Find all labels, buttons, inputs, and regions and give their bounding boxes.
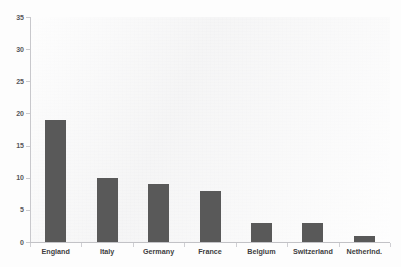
- y-tick-label: 35: [4, 14, 24, 21]
- x-tick-mark: [339, 243, 340, 247]
- x-axis-line: [30, 242, 390, 243]
- bar: [148, 184, 169, 242]
- x-tick-mark: [81, 243, 82, 247]
- bar: [251, 223, 272, 242]
- y-tick-mark: [26, 178, 30, 179]
- x-tick-mark: [30, 243, 31, 247]
- bar: [97, 178, 118, 242]
- x-tick-mark: [390, 243, 391, 247]
- y-tick-label: 20: [4, 110, 24, 117]
- y-tick-mark: [26, 146, 30, 147]
- x-tick-label: Netherlnd.: [339, 248, 390, 255]
- y-tick-label: 0: [4, 239, 24, 246]
- x-tick-mark: [236, 243, 237, 247]
- y-tick-mark: [26, 49, 30, 50]
- x-tick-label: Switzerland: [287, 248, 338, 255]
- y-tick-mark: [26, 17, 30, 18]
- y-axis-line: [30, 17, 31, 243]
- y-tick-mark: [26, 113, 30, 114]
- y-tick-mark: [26, 81, 30, 82]
- x-tick-label: England: [30, 248, 81, 255]
- y-tick-mark: [26, 210, 30, 211]
- x-tick-label: France: [184, 248, 235, 255]
- bar: [200, 191, 221, 242]
- y-tick-label: 15: [4, 142, 24, 149]
- x-tick-mark: [184, 243, 185, 247]
- bar: [354, 236, 375, 242]
- x-tick-mark: [133, 243, 134, 247]
- y-tick-label: 5: [4, 206, 24, 213]
- x-tick-label: Italy: [81, 248, 132, 255]
- x-tick-label: Belgium: [236, 248, 287, 255]
- y-tick-label: 10: [4, 174, 24, 181]
- y-tick-label: 25: [4, 78, 24, 85]
- bar: [45, 120, 66, 242]
- bar-chart-figure: 05101520253035 EnglandItalyGermanyFrance…: [0, 0, 401, 267]
- y-tick-label: 30: [4, 46, 24, 53]
- x-tick-label: Germany: [133, 248, 184, 255]
- x-tick-mark: [287, 243, 288, 247]
- bar: [302, 223, 323, 242]
